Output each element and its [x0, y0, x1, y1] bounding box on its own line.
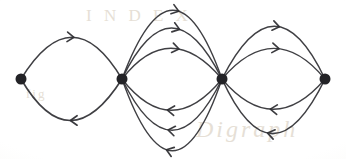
edge-layer [21, 5, 325, 157]
directed-multigraph [0, 0, 346, 159]
graph-edge [222, 26, 325, 79]
graph-edge [222, 79, 325, 109]
graph-edge [122, 79, 222, 130]
edge-arrowhead [268, 130, 276, 139]
edge-arrowhead [272, 21, 280, 30]
edge-arrowhead [168, 126, 175, 135]
graph-node [217, 74, 228, 85]
figure-canvas: Digraph I N D E X fig [0, 0, 346, 159]
graph-edge [122, 10, 222, 79]
edge-arrowhead [172, 23, 180, 32]
edge-arrowhead [171, 5, 179, 14]
edge-arrowhead [166, 147, 174, 156]
graph-node [117, 74, 128, 85]
node-layer [16, 74, 331, 85]
graph-edge [21, 37, 122, 79]
graph-node [320, 74, 331, 85]
graph-edge [21, 79, 122, 120]
graph-edge [122, 28, 222, 79]
graph-node [16, 74, 27, 85]
